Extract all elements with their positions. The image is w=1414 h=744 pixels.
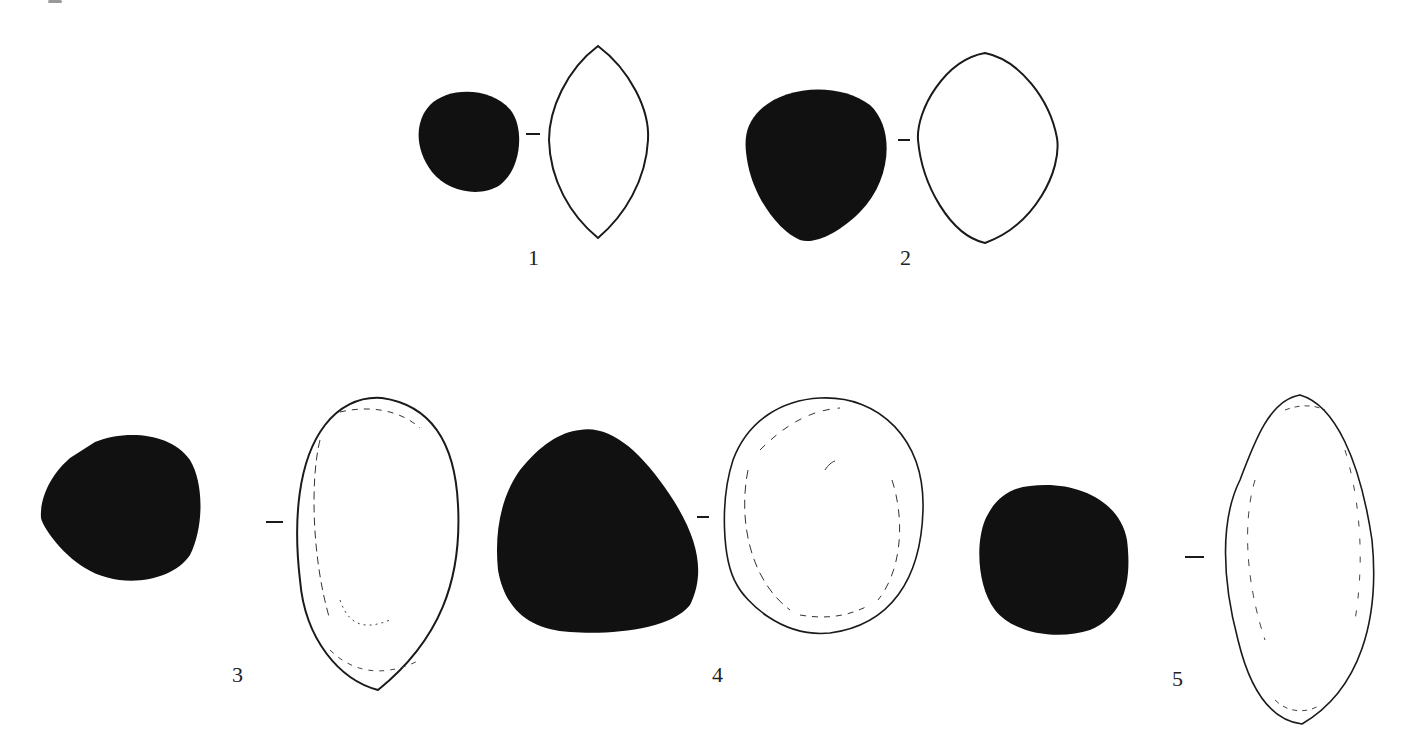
item-5-section <box>1226 395 1374 724</box>
item-2-number: 2 <box>900 245 911 271</box>
item-3-silhouette <box>41 435 201 581</box>
item-4-section <box>724 398 923 634</box>
item-2-silhouette <box>746 89 887 241</box>
item-4-number: 4 <box>712 662 723 688</box>
item-1 <box>419 46 649 238</box>
item-4-silhouette <box>497 429 698 632</box>
item-4 <box>497 398 923 634</box>
item-3-number: 3 <box>232 662 243 688</box>
item-1-number: 1 <box>528 245 539 271</box>
item-3-section <box>297 398 458 690</box>
item-1-silhouette <box>419 92 520 192</box>
item-2-section <box>918 53 1058 243</box>
item-1-section <box>549 46 648 238</box>
item-5-number: 5 <box>1172 666 1183 692</box>
item-3 <box>41 398 459 690</box>
artifact-figure <box>0 0 1414 744</box>
item-2 <box>746 53 1058 243</box>
item-5-silhouette <box>979 485 1128 635</box>
